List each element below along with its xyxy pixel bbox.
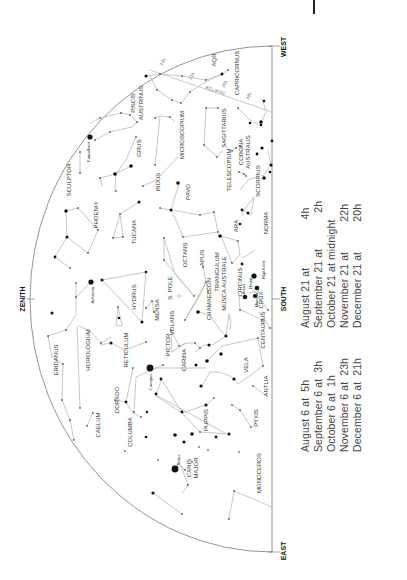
label-south-pole: S. POLE (167, 276, 173, 299)
label-microscopium: MICROSCOPIUM (179, 111, 185, 159)
label-canis-major-1: CANIS (186, 459, 192, 477)
label-reticulum: RETICULUM (123, 332, 129, 367)
label-horologium: HOROLOGIUM (85, 329, 91, 371)
time-row: September 21 at 2h (312, 201, 324, 328)
star-achernar: Achernar (90, 286, 95, 304)
label-triangulum-1: TRIANGULUM (214, 252, 220, 292)
time-row: December 21 at 20h (351, 204, 363, 328)
time-row: September 6 at 3h (312, 361, 324, 452)
label-dorado: DORADO (114, 387, 120, 414)
time-row: November 21 at 22h (338, 204, 350, 328)
label-carina: CARINA (181, 349, 187, 372)
label-indus: INDUS (155, 173, 161, 192)
label-pavo: PAVO (185, 184, 191, 200)
label-antlia: ANTLIA (263, 375, 269, 396)
label-grus: GRUS (136, 139, 142, 156)
zenith-label: ZENITH (19, 286, 26, 311)
svg-text:21h: 21h (188, 71, 196, 80)
time-row: October 6 at 1h (325, 375, 337, 452)
label-scorpius: SCORPIUS (255, 165, 261, 196)
time-row: August 6 at 5h (299, 380, 311, 452)
label-ara: ARA (233, 220, 239, 232)
label-piscis-austrinus-1: PISCIS (130, 93, 136, 113)
label-triangulum-2: AUSTRALE (221, 256, 227, 288)
west-label: WEST (280, 36, 287, 57)
label-sagittarius: SAGITTARIUS (221, 108, 227, 148)
time-row: December 6 at 21h (351, 358, 363, 452)
label-tucana: TUCANA (131, 220, 137, 245)
label-monoceros: MONOCEROS (256, 453, 262, 493)
label-centaurus: CENTAURUS (260, 312, 266, 349)
label-eridanus: ERIDANUS (53, 344, 59, 375)
label-musca: MUSCA (221, 289, 227, 311)
label-mensa: MENSA (154, 299, 160, 320)
label-pictor: PICTOR (165, 333, 171, 356)
label-capricornus: CAPRICORNUS (234, 51, 240, 95)
label-columba: COLUMBA (127, 417, 133, 447)
label-norma: NORMA (263, 212, 269, 234)
east-label: EAST (280, 541, 287, 560)
south-label: SOUTH (280, 287, 287, 312)
label-volans: VOLANS (169, 311, 175, 335)
svg-text:20h: 20h (221, 79, 229, 88)
svg-text:19h: 19h (245, 91, 253, 100)
star-fomalhaut: Fomalhaut (86, 141, 91, 162)
label-apus: APUS (199, 250, 205, 266)
star-labels: Achernar Fomalhaut Canopus Sirius Acrux … (86, 141, 266, 465)
time-row: August 21 at 4h (299, 208, 311, 328)
south-pole-marker (176, 293, 182, 299)
star-acrux: Acrux (241, 283, 246, 295)
star-canopus: Canopus (148, 374, 153, 391)
time-row: November 6 at 23h (338, 358, 350, 452)
star-hadar: Hadar (248, 277, 253, 289)
constellation-labels: ERIDANUS HOROLOGIUM CAELUM DORADO RETICU… (53, 51, 269, 493)
chart-outline (27, 46, 280, 552)
star-rigil-kent: Rigil Kent (261, 260, 266, 279)
star-sirius: Sirius (176, 455, 181, 465)
label-canis-major-2: MAJOR (193, 457, 199, 479)
label-phoenix: PHOENIX (93, 201, 99, 228)
label-caelum: CAELUM (95, 412, 101, 437)
label-puppis: PUPPIS (203, 409, 209, 431)
label-sculptor: SCULPTOR (66, 163, 72, 196)
time-row: October 21 at midnight (325, 220, 337, 328)
label-chamaeleon: CHAMAELEON (206, 278, 212, 320)
svg-text:22h: 22h (159, 57, 167, 66)
label-vela: VELA (243, 357, 249, 372)
label-corona-1: CORONA (238, 139, 244, 165)
label-telescopium: TELESCOPIUM (226, 148, 232, 191)
label-aqr: AQR (211, 53, 217, 67)
label-piscis-austrinus-2: AUSTRINUS (138, 86, 144, 121)
observing-times: August 6 at 5h September 6 at 3h October… (290, 0, 407, 580)
label-hydrus: HYDRUS (131, 284, 137, 309)
label-octans: OCTANS (182, 243, 188, 268)
label-pyxis: PYXIS (253, 409, 259, 427)
label-corona-2: AUSTRALIS (245, 135, 251, 168)
star-mimosa: Mimosa (254, 292, 259, 307)
